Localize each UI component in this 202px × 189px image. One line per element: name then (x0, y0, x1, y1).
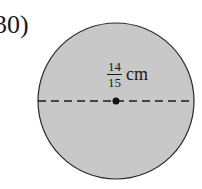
center-point (113, 98, 120, 105)
circle-diagram (0, 0, 202, 189)
fraction-denominator: 15 (107, 75, 122, 89)
unit-label: cm (126, 65, 148, 83)
fraction-numerator: 14 (107, 60, 122, 75)
diameter-fraction: 14 15 (107, 60, 122, 89)
